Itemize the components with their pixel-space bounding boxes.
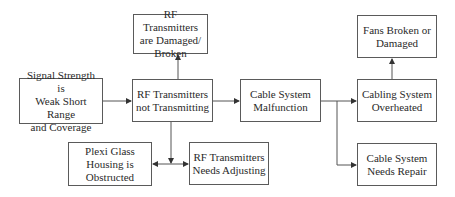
node-cable-malfunction: Cable System Malfunction [240,79,321,122]
node-signal-weak: Signal Strength is Weak Short Range and … [19,78,103,124]
node-label: Cabling System Overheated [362,88,432,114]
node-label: Signal Strength is Weak Short Range and … [22,69,100,134]
node-rf-damaged: RF Transmitters are Damaged/ Broken [133,14,208,54]
node-rf-not-transmitting: RF Transmitters not Transmitting [132,79,213,122]
arrow-cable-to-repair [337,101,356,165]
node-cable-repair: Cable System Needs Repair [357,143,437,186]
node-rf-adjusting: RF Transmitters Needs Adjusting [189,142,269,185]
node-plexi-obstructed: Plexi Glass Housing is Obstructed [68,142,152,186]
node-label: RF Transmitters Needs Adjusting [192,151,265,177]
node-label: Fans Broken or Damaged [363,24,431,50]
node-label: Plexi Glass Housing is Obstructed [85,145,135,184]
node-cabling-overheated: Cabling System Overheated [357,79,437,122]
node-label: Cable System Malfunction [250,88,311,114]
node-fans-broken: Fans Broken or Damaged [357,15,437,58]
node-label: RF Transmitters not Transmitting [136,88,209,114]
node-label: RF Transmitters are Damaged/ Broken [136,8,205,60]
node-label: Cable System Needs Repair [367,152,428,178]
